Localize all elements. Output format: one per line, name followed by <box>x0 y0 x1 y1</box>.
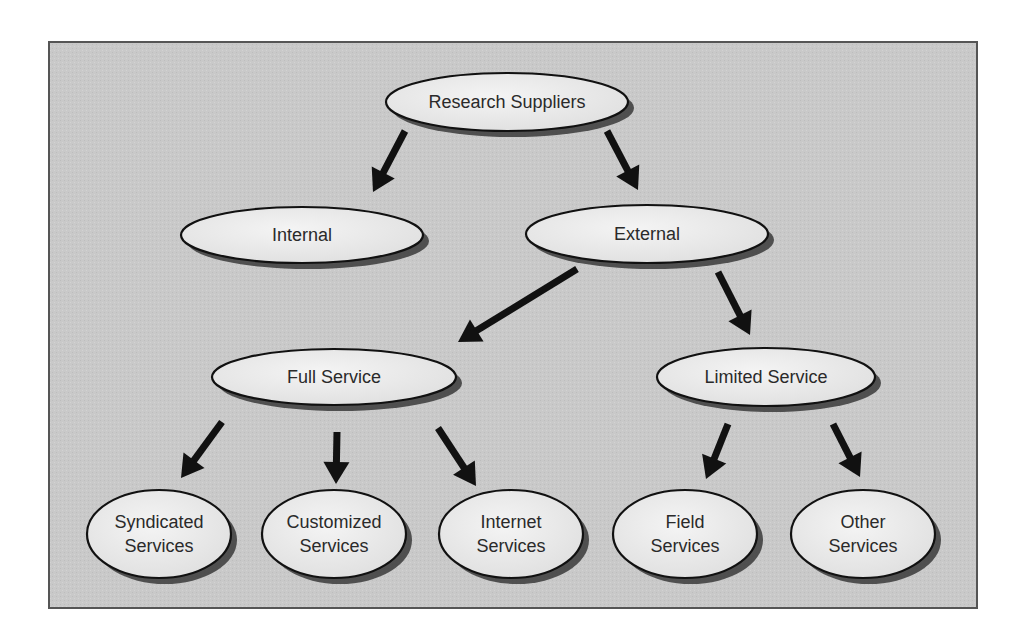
node-ellipse <box>87 490 231 578</box>
node-external: External <box>526 205 774 269</box>
node-label: Syndicated <box>114 512 203 532</box>
node-label: Customized <box>286 512 381 532</box>
node-ellipse <box>262 490 406 578</box>
node-full-service: Full Service <box>212 349 462 411</box>
node-ellipse <box>613 490 757 578</box>
node-ellipse <box>439 490 583 578</box>
node-label: Field <box>665 512 704 532</box>
node-ellipse <box>791 490 935 578</box>
node-label: Services <box>650 536 719 556</box>
node-label: Research Suppliers <box>428 92 585 112</box>
node-internal: Internal <box>181 207 429 269</box>
node-label: Services <box>476 536 545 556</box>
node-label: Services <box>124 536 193 556</box>
node-label: External <box>614 224 680 244</box>
node-label: Internet <box>480 512 541 532</box>
node-research-suppliers: Research Suppliers <box>386 73 634 137</box>
node-label: Other <box>840 512 885 532</box>
node-label: Services <box>299 536 368 556</box>
node-label: Full Service <box>287 367 381 387</box>
arrow-shaft <box>336 432 337 464</box>
node-label: Services <box>828 536 897 556</box>
node-label: Internal <box>272 225 332 245</box>
research-suppliers-diagram: Research SuppliersInternalExternalFull S… <box>0 0 1023 639</box>
node-label: Limited Service <box>704 367 827 387</box>
